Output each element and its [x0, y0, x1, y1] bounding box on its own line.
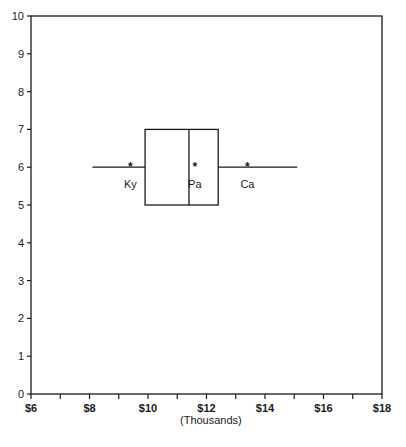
- x-axis-title: (Thousands): [180, 414, 242, 426]
- y-tick-label: 0: [18, 388, 24, 400]
- y-tick-label: 7: [18, 123, 24, 135]
- y-tick-label: 8: [18, 86, 24, 98]
- box-plot-chart: 012345678910 $6$8$10$12$14$16$18 *Ky*Pa*…: [0, 0, 406, 447]
- x-tick-label: $8: [83, 402, 95, 414]
- asterisk-marker-icon: *: [128, 160, 133, 174]
- x-tick-label: $16: [314, 402, 332, 414]
- x-axis: $6$8$10$12$14$16$18: [25, 394, 391, 414]
- y-tick-label: 1: [18, 350, 24, 362]
- y-tick-label: 3: [18, 275, 24, 287]
- x-tick-label: $10: [139, 402, 157, 414]
- y-tick-label: 5: [18, 199, 24, 211]
- interquartile-box: [145, 129, 218, 205]
- y-axis: 012345678910: [12, 10, 31, 400]
- y-tick-label: 6: [18, 161, 24, 173]
- x-tick-label: $12: [197, 402, 215, 414]
- y-tick-label: 4: [18, 237, 24, 249]
- x-tick-label: $18: [373, 402, 391, 414]
- marker-label-pa: Pa: [188, 178, 202, 190]
- marker-label-ky: Ky: [124, 178, 137, 190]
- x-tick-label: $6: [25, 402, 37, 414]
- state-markers: *Ky*Pa*Ca: [124, 160, 255, 190]
- y-tick-label: 10: [12, 10, 24, 22]
- y-tick-label: 2: [18, 312, 24, 324]
- marker-label-ca: Ca: [240, 178, 255, 190]
- asterisk-marker-icon: *: [245, 160, 250, 174]
- asterisk-marker-icon: *: [192, 160, 197, 174]
- x-tick-label: $14: [256, 402, 275, 414]
- y-tick-label: 9: [18, 48, 24, 60]
